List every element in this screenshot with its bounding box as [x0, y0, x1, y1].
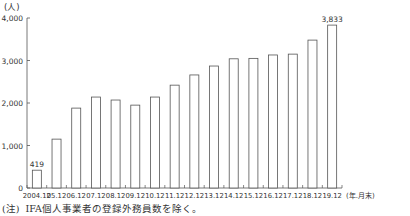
x-tick-label: 05.12	[47, 192, 66, 200]
footnote: (注)IFA個人事業者の登録外務員数を除く。	[2, 201, 202, 215]
y-tick-label: 3,000	[2, 57, 24, 66]
x-tick-label: 19.12	[322, 192, 341, 200]
footnote-text: IFA個人事業者の登録外務員数を除く。	[25, 203, 201, 214]
y-tick-label: 1,000	[2, 142, 24, 151]
y-tick-label: 4,000	[2, 14, 24, 23]
footnote-tag: (注)	[2, 203, 19, 214]
bar	[131, 105, 140, 188]
bar	[72, 108, 81, 188]
x-tick-label: 12.12	[185, 192, 204, 200]
bar	[111, 100, 120, 188]
x-tick-label: 09.12	[126, 192, 145, 200]
bar	[210, 66, 219, 188]
bar	[308, 40, 317, 188]
x-tick-label: 14.12	[224, 192, 243, 200]
x-tick-label: 17.12	[283, 192, 302, 200]
x-unit-label: (年.月末)	[346, 191, 375, 200]
x-tick-label: 15.12	[244, 192, 263, 200]
bar	[91, 97, 100, 188]
bar	[32, 170, 41, 188]
bar	[229, 59, 238, 188]
bar	[150, 97, 159, 188]
y-unit-label: (人)	[4, 2, 20, 12]
y-tick-label: 2,000	[2, 99, 24, 108]
x-tick-label: 13.12	[204, 192, 223, 200]
data-label: 3,833	[321, 15, 343, 24]
x-tick-label: 07.12	[86, 192, 105, 200]
x-tick-label: 08.12	[106, 192, 125, 200]
bar	[269, 55, 278, 188]
x-tick-label: 10.12	[145, 192, 164, 200]
x-tick-label: 06.12	[66, 192, 85, 200]
bar	[249, 58, 258, 188]
x-tick-label: 11.12	[165, 192, 184, 200]
bar	[328, 25, 337, 188]
bar	[190, 75, 199, 188]
x-tick-label: 16.12	[263, 192, 282, 200]
bar	[170, 85, 179, 188]
x-tick-label: 18.12	[303, 192, 322, 200]
bar-chart: (人)01,0002,0003,0004,0002004.1205.1206.1…	[0, 0, 410, 200]
bar	[52, 139, 61, 188]
bar	[288, 54, 297, 188]
data-label: 419	[30, 160, 45, 169]
